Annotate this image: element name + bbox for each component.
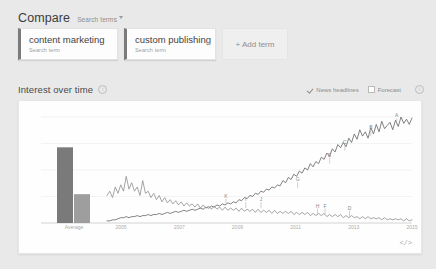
chart-options: News headlines Forecast i <box>307 85 428 94</box>
news-marker[interactable]: D <box>348 205 352 211</box>
search-term-text: content marketing <box>29 34 109 45</box>
news-marker[interactable]: A <box>395 112 398 118</box>
news-marker[interactable]: G <box>296 176 300 182</box>
search-term-card[interactable]: content marketing Search term <box>18 28 118 60</box>
news-headlines-label: News headlines <box>316 87 358 93</box>
forecast-toggle[interactable]: Forecast <box>368 86 401 93</box>
forecast-label: Forecast <box>378 87 401 93</box>
section-title: Interest over time <box>18 84 93 95</box>
close-icon[interactable]: ✕ <box>206 40 211 47</box>
compare-header: Compare Search terms <box>18 8 123 26</box>
interest-over-time-chart[interactable]: Average200520072009201120132015 KJGIECBA… <box>18 100 422 254</box>
checkbox-icon <box>368 86 375 93</box>
info-icon[interactable]: i <box>98 85 107 94</box>
news-marker-layer: KJGIECBAHFD <box>19 101 421 253</box>
forecast-info-icon[interactable]: i <box>415 85 424 94</box>
check-icon <box>307 87 313 93</box>
search-term-card[interactable]: custom publishing Search term ✕ <box>124 28 216 60</box>
news-marker[interactable]: E <box>328 152 331 158</box>
search-term-cards: content marketing Search term custom pub… <box>18 28 288 60</box>
search-term-type: Search term <box>135 47 207 53</box>
news-marker[interactable]: H <box>316 203 320 209</box>
news-marker[interactable]: F <box>324 203 327 209</box>
add-term-button[interactable]: + Add term <box>222 28 288 60</box>
interest-over-time-header: Interest over time i News headlines Fore… <box>18 84 428 95</box>
search-term-type: Search term <box>29 47 109 53</box>
add-term-label: + Add term <box>236 40 275 49</box>
news-marker[interactable]: J <box>260 196 263 202</box>
news-marker[interactable]: K <box>224 193 227 199</box>
chevron-down-icon <box>119 16 123 19</box>
news-headlines-toggle[interactable]: News headlines <box>307 87 358 93</box>
search-terms-dropdown[interactable]: Search terms <box>77 8 123 26</box>
news-marker[interactable]: C <box>343 139 347 145</box>
news-marker[interactable]: I <box>245 196 246 202</box>
embed-code-icon[interactable]: </> <box>399 239 412 247</box>
search-term-text: custom publishing <box>135 34 207 45</box>
news-marker[interactable]: B <box>369 124 372 130</box>
search-terms-label: Search terms <box>77 16 117 23</box>
google-trends-page: Compare Search terms content marketing S… <box>0 0 436 269</box>
page-title: Compare <box>18 11 70 25</box>
